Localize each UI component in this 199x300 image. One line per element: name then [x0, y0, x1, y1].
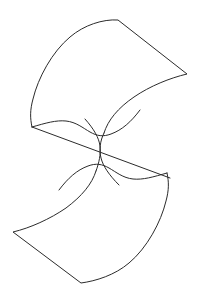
figure-root [0, 0, 199, 300]
saddle-surface-drawing [0, 0, 199, 300]
